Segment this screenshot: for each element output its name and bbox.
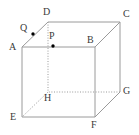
point-label-q: Q	[20, 23, 27, 33]
vertex-label-g: G	[123, 86, 130, 96]
vertex-label-d: D	[43, 7, 50, 17]
edge-FG	[95, 92, 120, 117]
cube-edges	[22, 22, 120, 117]
point-q-dot	[31, 32, 34, 35]
cube-svg	[0, 0, 139, 135]
edge-BC	[95, 22, 120, 47]
point-label-p: P	[49, 31, 55, 41]
vertex-label-h: H	[44, 93, 51, 103]
vertex-label-a: A	[9, 42, 16, 52]
vertex-label-e: E	[10, 112, 16, 122]
point-p-dot	[51, 44, 54, 47]
vertex-label-c: C	[123, 9, 130, 19]
cube-diagram: ABCDEFGHPQ	[0, 0, 139, 135]
vertex-label-b: B	[87, 35, 94, 45]
vertex-label-f: F	[91, 120, 97, 130]
